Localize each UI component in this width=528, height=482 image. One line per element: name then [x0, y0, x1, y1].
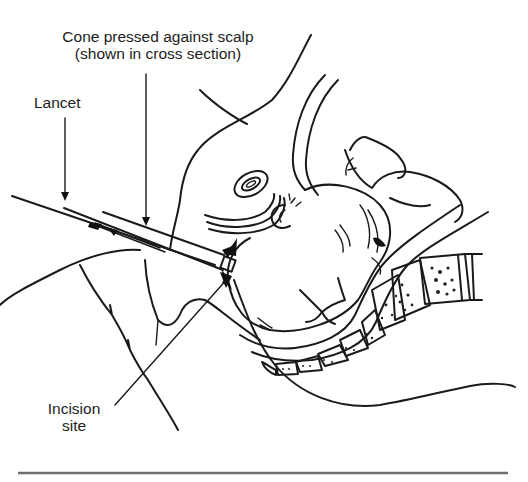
abdomen-outline [170, 35, 311, 250]
bladder-line-2 [207, 196, 280, 227]
uterine-wall-inner [306, 80, 338, 195]
bladder-line-1 [205, 194, 274, 220]
fetal-arm [345, 150, 462, 222]
incision-label-line1: Incision [34, 400, 114, 417]
incision-label-line2: site [34, 417, 114, 434]
lancet-grip [88, 222, 102, 230]
fetal-forearm [390, 198, 430, 206]
fetal-head [228, 185, 390, 331]
incision-leader [115, 278, 228, 405]
thigh-line [148, 380, 178, 430]
sacrum-vertebrae [262, 254, 482, 375]
posterior-wall-inner [240, 205, 460, 348]
diagram-canvas: Cone pressed against scalp (shown in cro… [0, 0, 528, 482]
labia-fold [145, 260, 260, 340]
symphysis-outer [230, 165, 272, 202]
cone-label: Cone pressed against scalp (shown in cro… [28, 28, 288, 62]
contact-wedge-top [373, 237, 386, 246]
lancet-blade [95, 223, 160, 248]
fetal-ear-inner [280, 210, 285, 222]
incision-label: Incision site [34, 400, 114, 434]
cone-label-line1: Cone pressed against scalp [28, 28, 288, 45]
symphysis-inner [240, 175, 262, 194]
lancet-label: Lancet [34, 94, 81, 111]
cone-tip [220, 256, 235, 271]
cone-label-line2: (shown in cross section) [28, 45, 288, 62]
uterine-wall-outer [293, 75, 325, 190]
buttock-curve [0, 250, 140, 305]
